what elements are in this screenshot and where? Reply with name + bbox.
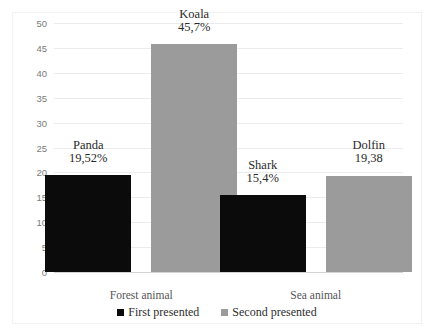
bar-item-value: 19,38 [352,152,385,165]
axis-baseline [54,272,403,273]
legend-label: Second presented [232,305,316,320]
legend-swatch-icon [117,309,124,316]
x-axis-category-label: Sea animal [290,289,341,301]
y-axis-tick-label: 35 [36,92,47,103]
plot-area: 05101520253035404550Panda19,52%Koala45,7… [54,23,403,272]
clipped-caption-strip: …cut-off text line above figure… [0,0,435,9]
bar[interactable] [45,175,131,272]
bar-value-label: Shark15,4% [247,159,279,185]
bar-value-label: Panda19,52% [69,139,108,165]
legend-entry[interactable]: First presented [117,305,199,320]
y-axis-tick-label: 40 [36,67,47,78]
y-axis-tick-label: 45 [36,42,47,53]
bar-value-label: Dolfin19,38 [352,139,385,165]
bar-item-value: 15,4% [247,172,279,185]
y-axis-tick-label: 30 [36,117,47,128]
bar-item-value: 45,7% [178,21,210,34]
legend-label: First presented [128,305,199,320]
bar[interactable] [326,176,412,273]
chart-frame: 05101520253035404550Panda19,52%Koala45,7… [12,12,422,324]
x-axis-category-label: Forest animal [110,289,173,301]
y-axis-tick-label: 25 [36,142,47,153]
bar-item-value: 19,52% [69,152,108,165]
legend-swatch-icon [221,309,228,316]
y-axis-tick-label: 50 [36,18,47,29]
bar-value-label: Koala45,7% [178,8,210,34]
chart-legend: First presentedSecond presented [13,305,421,320]
legend-entry[interactable]: Second presented [221,305,316,320]
gridline [54,23,403,24]
bar[interactable] [220,195,306,272]
